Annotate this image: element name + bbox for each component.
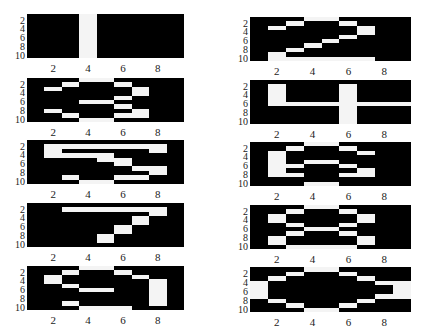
y-tick-label: 10 bbox=[230, 305, 248, 315]
matrix-cell bbox=[62, 118, 79, 122]
matrix-cell bbox=[114, 118, 131, 122]
matrix-cell bbox=[393, 120, 411, 124]
matrix-cell bbox=[97, 243, 114, 247]
y-tick-label: 10 bbox=[7, 51, 25, 61]
matrix-cell bbox=[27, 243, 44, 247]
matrix-cell bbox=[132, 306, 149, 310]
matrix-cell bbox=[149, 180, 166, 184]
matrix-cell bbox=[268, 245, 286, 249]
matrix-cell bbox=[339, 57, 357, 61]
matrix-cell bbox=[132, 180, 149, 184]
x-tick-label: 2 bbox=[269, 129, 285, 140]
matrix-cell bbox=[167, 54, 184, 58]
matrix-image bbox=[250, 205, 411, 249]
matrix-cell bbox=[375, 308, 393, 313]
matrix-panel: 2468102468 bbox=[27, 203, 184, 247]
matrix-cell bbox=[149, 243, 166, 247]
y-tick-label: 10 bbox=[7, 177, 25, 187]
matrix-cell bbox=[44, 54, 61, 58]
matrix-cell bbox=[149, 54, 166, 58]
matrix-image bbox=[27, 266, 184, 310]
matrix-panel: 2468102468 bbox=[27, 78, 184, 122]
x-tick-label: 4 bbox=[80, 252, 96, 263]
matrix-panel: 2468102468 bbox=[27, 266, 184, 310]
x-tick-label: 2 bbox=[45, 189, 61, 200]
x-tick-label: 8 bbox=[150, 63, 166, 74]
matrix-cell bbox=[250, 120, 268, 124]
y-tick-label: 10 bbox=[230, 54, 248, 64]
x-tick-label: 6 bbox=[340, 129, 356, 140]
matrix-panel: 2468102468 bbox=[250, 267, 411, 312]
x-tick-label: 6 bbox=[115, 189, 131, 200]
matrix-cell bbox=[79, 306, 96, 310]
x-tick-label: 6 bbox=[340, 317, 356, 328]
matrix-cell bbox=[62, 306, 79, 310]
matrix-panel: 2468102468 bbox=[250, 142, 411, 186]
x-tick-label: 2 bbox=[45, 63, 61, 74]
matrix-cell bbox=[393, 308, 411, 313]
x-tick-label: 8 bbox=[150, 315, 166, 326]
matrix-cell bbox=[79, 118, 96, 122]
matrix-cell bbox=[393, 57, 411, 61]
matrix-cell bbox=[62, 243, 79, 247]
y-tick-label: 10 bbox=[7, 115, 25, 125]
x-tick-label: 2 bbox=[45, 252, 61, 263]
matrix-cell bbox=[286, 308, 304, 313]
x-tick-label: 4 bbox=[305, 191, 321, 202]
matrix-cell bbox=[375, 182, 393, 186]
matrix-panel: 2468102468 bbox=[250, 205, 411, 249]
matrix-cell bbox=[304, 308, 322, 313]
matrix-cell bbox=[286, 120, 304, 124]
matrix-cell bbox=[304, 57, 322, 61]
matrix-cell bbox=[357, 120, 375, 124]
x-tick-label: 4 bbox=[305, 66, 321, 77]
matrix-cell bbox=[357, 245, 375, 249]
matrix-cell bbox=[322, 308, 340, 313]
matrix-cell bbox=[393, 182, 411, 186]
x-tick-label: 6 bbox=[340, 191, 356, 202]
matrix-cell bbox=[250, 57, 268, 61]
matrix-cell bbox=[322, 245, 340, 249]
x-tick-label: 6 bbox=[115, 315, 131, 326]
matrix-cell bbox=[250, 308, 268, 313]
matrix-cell bbox=[27, 180, 44, 184]
matrix-image bbox=[250, 17, 411, 61]
matrix-cell bbox=[97, 118, 114, 122]
matrix-cell bbox=[132, 54, 149, 58]
matrix-cell bbox=[167, 243, 184, 247]
y-tick-label: 10 bbox=[7, 303, 25, 313]
x-tick-label: 4 bbox=[305, 129, 321, 140]
x-tick-label: 8 bbox=[376, 254, 392, 265]
x-tick-label: 6 bbox=[115, 127, 131, 138]
matrix-cell bbox=[339, 245, 357, 249]
x-tick-label: 8 bbox=[150, 252, 166, 263]
matrix-cell bbox=[250, 182, 268, 186]
matrix-cell bbox=[79, 180, 96, 184]
matrix-cell bbox=[114, 54, 131, 58]
matrix-cell bbox=[97, 306, 114, 310]
matrix-cell bbox=[44, 306, 61, 310]
x-tick-label: 2 bbox=[45, 315, 61, 326]
matrix-cell bbox=[44, 180, 61, 184]
matrix-cell bbox=[375, 120, 393, 124]
matrix-panel: 2468102468 bbox=[27, 140, 184, 184]
x-tick-label: 6 bbox=[115, 63, 131, 74]
x-tick-label: 8 bbox=[376, 129, 392, 140]
matrix-cell bbox=[286, 57, 304, 61]
matrix-cell bbox=[304, 182, 322, 186]
matrix-cell bbox=[357, 57, 375, 61]
matrix-panel: 2468102468 bbox=[250, 17, 411, 61]
matrix-cell bbox=[62, 180, 79, 184]
matrix-cell bbox=[339, 182, 357, 186]
x-tick-label: 8 bbox=[376, 317, 392, 328]
matrix-cell bbox=[167, 180, 184, 184]
matrix-cell bbox=[132, 243, 149, 247]
matrix-cell bbox=[250, 245, 268, 249]
matrix-cell bbox=[97, 54, 114, 58]
x-tick-label: 8 bbox=[150, 127, 166, 138]
x-tick-label: 2 bbox=[269, 191, 285, 202]
matrix-image bbox=[27, 203, 184, 247]
x-tick-label: 2 bbox=[269, 317, 285, 328]
matrix-cell bbox=[375, 57, 393, 61]
y-tick-label: 10 bbox=[230, 117, 248, 127]
